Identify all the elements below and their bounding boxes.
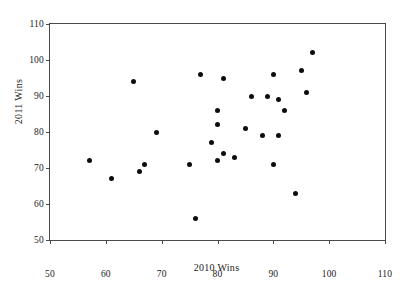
x-axis-tick <box>329 240 330 244</box>
data-point <box>282 108 287 113</box>
y-axis-tick-label: 50 <box>14 235 44 245</box>
data-point <box>187 162 192 167</box>
y-axis-tick-label: 110 <box>14 19 44 29</box>
y-axis-tick <box>46 96 50 97</box>
data-point <box>260 133 265 138</box>
data-point <box>87 158 92 163</box>
x-axis-tick <box>162 240 163 244</box>
x-axis-title: 2010 Wins <box>49 262 384 273</box>
data-point <box>276 97 281 102</box>
data-point <box>276 133 281 138</box>
y-axis-tick <box>46 168 50 169</box>
data-point <box>299 68 304 73</box>
data-point <box>215 158 220 163</box>
data-point <box>109 176 114 181</box>
data-points-layer <box>50 24 385 240</box>
y-axis-tick <box>46 240 50 241</box>
x-axis-tick <box>106 240 107 244</box>
y-axis-tick-label: 60 <box>14 199 44 209</box>
data-point <box>221 151 226 156</box>
x-axis-tick <box>218 240 219 244</box>
data-point <box>221 76 226 81</box>
data-point <box>142 162 147 167</box>
x-axis-tick <box>273 240 274 244</box>
data-point <box>310 50 315 55</box>
data-point <box>209 140 214 145</box>
y-axis-tick <box>46 60 50 61</box>
y-axis-tick <box>46 132 50 133</box>
data-point <box>215 108 220 113</box>
data-point <box>293 191 298 196</box>
data-point <box>193 216 198 221</box>
data-point <box>198 72 203 77</box>
data-point <box>249 94 254 99</box>
x-axis-tick <box>50 240 51 244</box>
data-point <box>215 122 220 127</box>
data-point <box>154 130 159 135</box>
x-axis-tick <box>385 240 386 244</box>
data-point <box>265 94 270 99</box>
plot-area: 50607080901001105060708090100110 <box>49 23 386 241</box>
data-point <box>271 72 276 77</box>
y-axis-title: 2011 Wins <box>13 32 24 172</box>
y-axis-tick <box>46 204 50 205</box>
data-point <box>131 79 136 84</box>
data-point <box>271 162 276 167</box>
data-point <box>243 126 248 131</box>
scatter-plot-figure: 50607080901001105060708090100110 2010 Wi… <box>0 0 407 289</box>
data-point <box>232 155 237 160</box>
data-point <box>304 90 309 95</box>
y-axis-tick <box>46 24 50 25</box>
data-point <box>137 169 142 174</box>
